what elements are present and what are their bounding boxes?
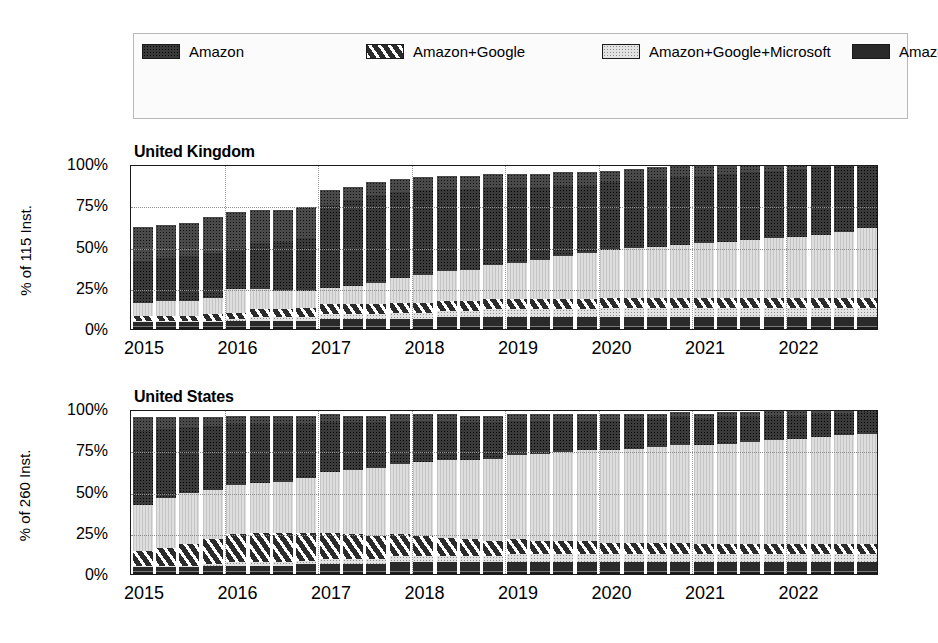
bar-segment-microsoft [811, 572, 831, 574]
bar-segment-amazon_google_microsoft [437, 311, 457, 318]
legend-swatch-amazon [142, 44, 180, 59]
bar-segment-microsoft [530, 572, 550, 574]
bar-segment-amazon [296, 424, 316, 478]
bar-stack [764, 165, 784, 329]
bar-segment-google [390, 464, 410, 535]
bar-segment-no_records [366, 416, 386, 423]
bar-segment-amazon_google_microsoft [811, 554, 831, 562]
bar-segment-amazon [717, 417, 737, 443]
bar-segment-amazon_microsoft [834, 562, 854, 570]
bar-segment-amazon_google [764, 544, 784, 554]
bar-segment-microsoft [647, 327, 667, 329]
bar-stack [764, 411, 784, 574]
bar-segment-amazon [390, 421, 410, 464]
bar-segment-microsoft [460, 572, 480, 574]
bar-segment-google [366, 468, 386, 536]
bar-stack [530, 174, 550, 329]
bar-segment-no_records [250, 416, 270, 424]
bar-segment-amazon_google [530, 541, 550, 554]
bar-segment-amazon_google_microsoft [483, 309, 503, 317]
bar-stack [250, 210, 270, 329]
bar-stack [811, 165, 831, 329]
gridline-vertical [412, 166, 413, 329]
x-tick-mark [599, 574, 600, 575]
bar-segment-amazon_google [203, 539, 223, 564]
bar-segment-amazon [413, 421, 433, 462]
bar-segment-google [647, 447, 667, 543]
bar-segment-microsoft [179, 572, 199, 574]
bar-segment-amazon_google [390, 534, 410, 555]
bar-segment-amazon [320, 205, 340, 287]
bar-segment-amazon_google [624, 543, 644, 555]
bar-segment-amazon_microsoft [460, 562, 480, 570]
bar-segment-microsoft [437, 572, 457, 574]
bar-segment-amazon_google [647, 543, 667, 555]
bar-segment-amazon_microsoft [717, 317, 737, 325]
bar-segment-amazon_google [740, 544, 760, 554]
chart-title-us: United States [134, 388, 234, 406]
bar-segment-amazon [437, 421, 457, 461]
bar-segment-amazon [156, 258, 176, 301]
bar-segment-microsoft [413, 572, 433, 574]
bar-segment-amazon_google_microsoft [647, 554, 667, 562]
bar-segment-google [507, 263, 527, 299]
bar-segment-amazon_microsoft [530, 317, 550, 325]
chart-panel-united-kingdom: % of 115 Inst. 0%25%50%75%100% United Ki… [0, 140, 938, 375]
bar-segment-no_records [740, 165, 760, 172]
bar-segment-microsoft [133, 327, 153, 329]
bar-segment-amazon_google [296, 533, 316, 561]
bar-segment-amazon_google [343, 534, 363, 559]
x-tick-mark [131, 574, 132, 575]
bar-segment-amazon [250, 243, 270, 289]
bar-segment-amazon_google [834, 544, 854, 554]
gridline-vertical [599, 411, 600, 574]
bar-segment-amazon_google [694, 544, 714, 554]
bar-segment-no_records [717, 165, 737, 174]
bar-stack [296, 416, 316, 574]
legend-swatch-amazon_google [366, 44, 404, 59]
bar-segment-google [694, 445, 714, 544]
bar-segment-amazon_google_microsoft [787, 308, 807, 318]
bar-segment-amazon_google_microsoft [740, 554, 760, 562]
bar-segment-no_records [250, 210, 270, 243]
bar-segment-amazon_google_microsoft [553, 554, 573, 562]
bar-segment-google [296, 291, 316, 307]
bar-segment-amazon_google_microsoft [460, 311, 480, 318]
x-tick-mark [786, 329, 787, 330]
bar-segment-amazon_google [577, 541, 597, 554]
bar-segment-amazon_google [577, 299, 597, 309]
bar-segment-amazon_microsoft [694, 562, 714, 570]
bar-segment-amazon_google [717, 298, 737, 308]
bar-segment-amazon_google [320, 533, 340, 559]
bar-segment-amazon_google [600, 543, 620, 555]
bar-segment-amazon_google_microsoft [787, 554, 807, 562]
gridline-horizontal [131, 494, 877, 495]
bars-us [131, 411, 877, 574]
bar-segment-amazon [787, 416, 807, 439]
x-tick-mark [225, 329, 226, 330]
bar-segment-microsoft [343, 327, 363, 329]
bar-segment-google [179, 493, 199, 544]
bar-segment-microsoft [577, 327, 597, 329]
bar-segment-amazon_microsoft [624, 562, 644, 570]
bar-segment-microsoft [624, 572, 644, 574]
bar-segment-amazon [226, 424, 246, 485]
bar-segment-amazon_google_microsoft [413, 313, 433, 320]
bar-segment-amazon [250, 424, 270, 483]
bar-segment-amazon_microsoft [553, 562, 573, 570]
bar-segment-no_records [553, 172, 573, 185]
bar-segment-amazon_google [437, 301, 457, 311]
bar-segment-microsoft [226, 572, 246, 574]
bar-segment-amazon [764, 171, 784, 239]
bar-stack [133, 227, 153, 329]
x-tick-label: 2019 [498, 338, 538, 359]
bar-segment-microsoft [156, 327, 176, 329]
bar-segment-no_records [133, 227, 153, 262]
bar-segment-amazon [296, 238, 316, 291]
bar-segment-amazon_microsoft [740, 562, 760, 570]
bar-segment-amazon [460, 189, 480, 270]
bar-segment-no_records [600, 414, 620, 421]
bar-segment-amazon_google [390, 303, 410, 313]
bar-segment-amazon [834, 414, 854, 435]
bar-segment-amazon_microsoft [670, 562, 690, 570]
